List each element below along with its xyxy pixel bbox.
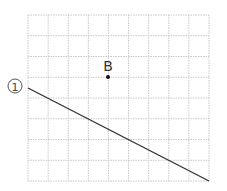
- point-b: [106, 75, 110, 79]
- line-label-marker: 1: [8, 79, 22, 94]
- line-label: 1: [12, 81, 19, 94]
- line-1: [28, 88, 209, 181]
- grid: [28, 15, 209, 181]
- diagram-canvas: 1 B: [0, 0, 227, 191]
- point-b-label: B: [103, 58, 113, 74]
